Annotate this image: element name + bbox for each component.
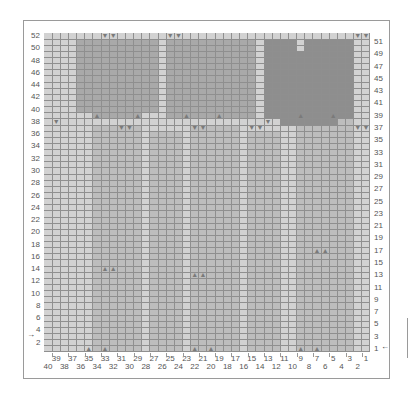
chart-cell [166, 278, 175, 285]
chart-cell [313, 76, 322, 83]
chart-cell [109, 150, 118, 157]
chart-cell [321, 39, 330, 46]
chart-cell [297, 223, 306, 230]
chart-cell [215, 131, 224, 138]
chart-cell [305, 131, 314, 138]
chart-cell [223, 94, 232, 101]
chart-cell [166, 235, 175, 242]
chart-cell [215, 272, 224, 279]
chart-cell [174, 70, 183, 77]
chart-cell [272, 94, 281, 101]
chart-cell [117, 113, 126, 120]
chart-cell [223, 242, 232, 249]
chart-cell [191, 199, 200, 206]
chart-cell [223, 45, 232, 52]
chart-cell [215, 260, 224, 267]
chart-cell [362, 285, 371, 292]
chart-cell [215, 94, 224, 101]
chart-cell [362, 205, 371, 212]
chart-cell [101, 168, 110, 175]
decrease-symbol-icon: ▼ [101, 33, 109, 39]
row-number-label: 29 [374, 173, 383, 181]
chart-cell [272, 156, 281, 163]
chart-cell [109, 39, 118, 46]
row-number-label: 50 [31, 44, 40, 52]
chart-cell [68, 156, 77, 163]
chart-cell [297, 303, 306, 310]
chart-cell [337, 119, 346, 126]
chart-cell [183, 315, 192, 322]
chart-cell [183, 242, 192, 249]
chart-cell [297, 70, 306, 77]
chart-cell [207, 242, 216, 249]
chart-cell [256, 211, 265, 218]
chart-cell [85, 285, 94, 292]
chart-cell [60, 113, 69, 120]
chart-cell [329, 39, 338, 46]
chart-cell [305, 107, 314, 114]
chart-cell [183, 150, 192, 157]
chart-cell [68, 39, 77, 46]
chart-cell [272, 266, 281, 273]
chart-cell [166, 309, 175, 316]
chart-cell [68, 119, 77, 126]
chart-cell [313, 211, 322, 218]
chart-cell [126, 334, 135, 341]
chart-cell [166, 113, 175, 120]
chart-cell [289, 223, 298, 230]
chart-cell [142, 119, 151, 126]
chart-cell [60, 180, 69, 187]
chart-cell [297, 143, 306, 150]
chart-cell [174, 82, 183, 89]
chart-cell [223, 266, 232, 273]
chart-cell [248, 180, 257, 187]
chart-cell [337, 334, 346, 341]
chart-cell [183, 39, 192, 46]
chart-cell [240, 113, 249, 120]
chart-cell [150, 217, 159, 224]
chart-cell [223, 327, 232, 334]
chart-cell [240, 168, 249, 175]
chart-cell [248, 235, 257, 242]
chart-cell [117, 100, 126, 107]
chart-cell [240, 297, 249, 304]
stitch-number-label: 14 [254, 363, 266, 371]
chart-cell [158, 254, 167, 261]
chart-cell [223, 162, 232, 169]
chart-cell [305, 217, 314, 224]
chart-cell [117, 211, 126, 218]
row-number-label: 1 [374, 345, 378, 353]
stitch-number-label: 20 [205, 363, 217, 371]
chart-cell [60, 229, 69, 236]
chart-cell [337, 297, 346, 304]
chart-cell [158, 193, 167, 200]
chart-cell [199, 174, 208, 181]
chart-cell [354, 260, 363, 267]
chart-cell [77, 143, 86, 150]
chart-cell [346, 266, 355, 273]
chart-cell [60, 309, 69, 316]
chart-cell [85, 315, 94, 322]
chart-cell [256, 88, 265, 95]
chart-cell [223, 168, 232, 175]
chart-cell [44, 340, 53, 347]
chart-cell [60, 334, 69, 341]
chart-cell [223, 260, 232, 267]
chart-cell [264, 51, 273, 58]
chart-cell [101, 100, 110, 107]
chart-cell [60, 156, 69, 163]
chart-cell [77, 125, 86, 132]
chart-cell [272, 168, 281, 175]
chart-cell [44, 285, 53, 292]
stitch-number-label: 6 [319, 363, 331, 371]
chart-cell [297, 64, 306, 71]
chart-cell [174, 266, 183, 273]
chart-cell [313, 70, 322, 77]
chart-cell [240, 321, 249, 328]
chart-cell [337, 88, 346, 95]
chart-cell [207, 94, 216, 101]
tick-mark [248, 353, 249, 357]
tick-mark [329, 353, 330, 357]
chart-cell [297, 94, 306, 101]
chart-cell [101, 162, 110, 169]
